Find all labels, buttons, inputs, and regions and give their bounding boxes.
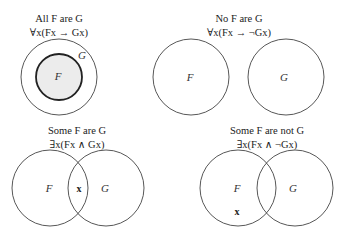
panel-all-f-are-g: All F are G ∀x(Fx → Gx) G F	[21, 13, 97, 115]
label-g: G	[78, 49, 86, 61]
panel-title: Some F are G	[48, 125, 106, 136]
label-g: G	[280, 71, 288, 83]
existence-marker: x	[77, 183, 82, 194]
panel-some-f-are-not-g: Some F are not G ∃x(Fx ∧ ¬Gx) F x G	[200, 125, 333, 226]
venn-diagrams: All F are G ∀x(Fx → Gx) G F No F are G ∀…	[0, 0, 345, 235]
existence-marker: x	[235, 206, 240, 217]
panel-formula: ∃x(Fx ∧ Gx)	[50, 139, 105, 151]
label-g: G	[101, 182, 109, 194]
label-f: F	[45, 182, 53, 194]
label-f: F	[233, 182, 241, 194]
panel-title: No F are G	[216, 13, 263, 24]
panel-some-f-are-g: Some F are G ∃x(Fx ∧ Gx) F x G	[12, 125, 144, 226]
label-g: G	[289, 182, 297, 194]
panel-no-f-are-g: No F are G ∀x(Fx → ¬Gx) F G	[153, 13, 324, 115]
panel-formula: ∀x(Fx → ¬Gx)	[207, 27, 272, 39]
label-f: F	[186, 71, 194, 83]
panel-title: All F are G	[35, 13, 83, 24]
panel-formula: ∃x(Fx ∧ ¬Gx)	[237, 139, 298, 151]
panel-title: Some F are not G	[230, 125, 304, 136]
panel-formula: ∀x(Fx → Gx)	[30, 27, 89, 39]
label-f: F	[54, 70, 62, 82]
